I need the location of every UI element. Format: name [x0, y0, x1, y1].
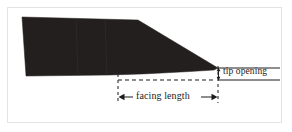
tip-opening-dimension-arrow: [217, 68, 221, 81]
tip-opening-label: tip opening: [223, 66, 267, 77]
mouthpiece-facing-figure: tip opening facing length: [0, 0, 292, 132]
mouthpiece-body-shape: [22, 17, 218, 76]
facing-length-label: facing length: [136, 90, 190, 102]
